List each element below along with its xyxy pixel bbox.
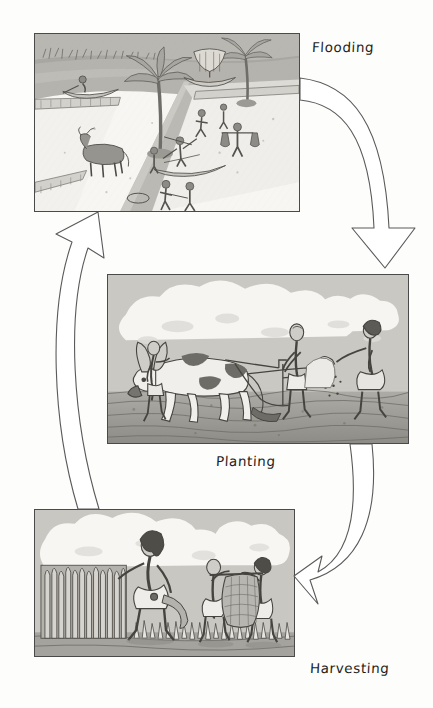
label-flooding: Flooding xyxy=(312,39,375,55)
arrow-harvesting-to-flooding xyxy=(56,212,104,509)
panel-harvesting[interactable] xyxy=(34,509,295,657)
panel-flooding[interactable] xyxy=(34,33,300,212)
label-harvesting: Harvesting xyxy=(310,660,390,676)
diagram-canvas: Flooding xyxy=(0,0,433,708)
label-planting: Planting xyxy=(216,453,277,469)
arrow-planting-to-harvesting xyxy=(294,444,374,604)
arrow-flooding-to-planting xyxy=(300,78,415,268)
panel-planting[interactable] xyxy=(107,274,409,444)
